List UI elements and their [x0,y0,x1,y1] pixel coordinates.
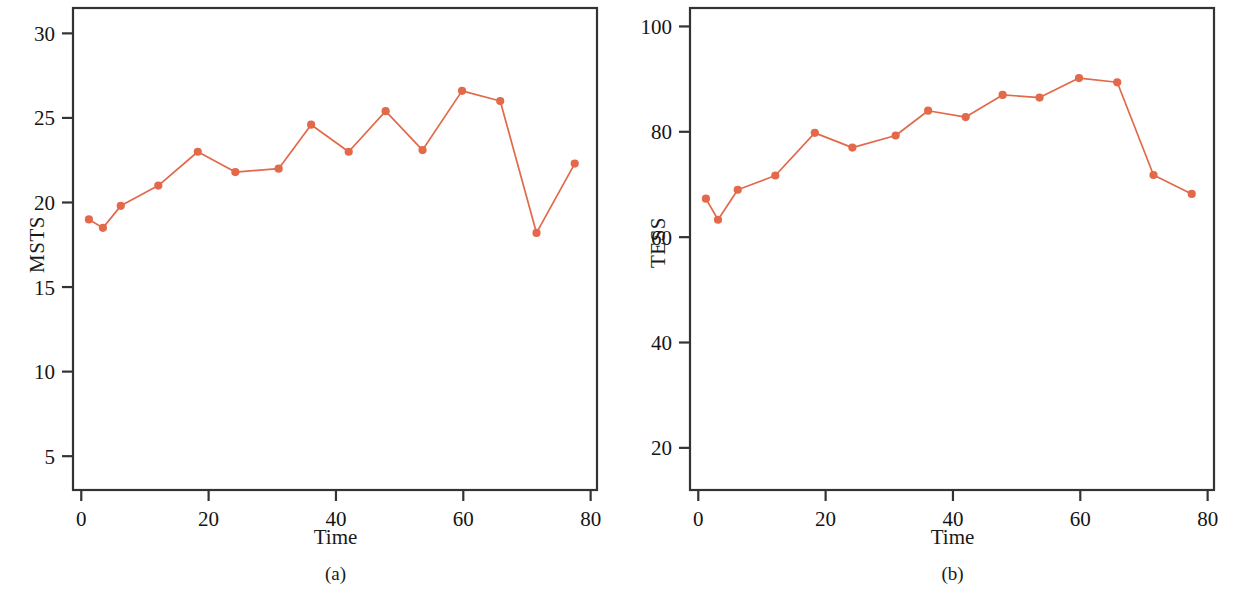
data-point-marker [345,148,353,156]
data-point-marker [714,216,722,224]
plot-frame [73,8,597,490]
plot-area-b: 20406080100020406080 [625,0,1249,590]
data-point-marker [924,107,932,115]
data-point-marker [154,181,162,189]
data-point-marker [307,121,315,129]
data-point-marker [771,171,779,179]
data-point-marker [275,165,283,173]
x-axis-label-b: Time [690,525,1215,550]
data-point-marker [231,168,239,176]
data-point-marker [999,91,1007,99]
data-point-marker [99,224,107,232]
data-point-marker [848,144,856,152]
data-point-marker [418,146,426,154]
y-tick-label: 25 [34,106,55,130]
data-point-marker [734,186,742,194]
data-point-marker [1188,190,1196,198]
data-point-marker [962,113,970,121]
x-axis-label-a: Time [73,525,598,550]
series-line [89,91,575,233]
data-point-marker [85,215,93,223]
data-point-marker [458,87,466,95]
chart-panel-a: 51015202530020406080 MSTS Time (a) [0,0,624,590]
y-axis-label-b: TESS [646,198,671,288]
data-point-marker [702,195,710,203]
data-point-marker [496,97,504,105]
data-point-marker [194,148,202,156]
data-point-marker [1113,78,1121,86]
data-point-marker [117,202,125,210]
plot-frame [690,8,1214,490]
data-point-marker [571,159,579,167]
data-point-marker [382,107,390,115]
data-point-marker [1075,74,1083,82]
y-tick-label: 5 [45,445,56,469]
plot-area-a: 51015202530020406080 [0,0,624,590]
y-axis-label-a: MSTS [25,200,50,290]
data-point-marker [811,129,819,137]
y-tick-label: 30 [34,22,55,46]
data-point-marker [1035,93,1043,101]
y-tick-label: 10 [34,360,55,384]
data-point-marker [1149,171,1157,179]
y-tick-label: 20 [651,436,672,460]
series-line [706,78,1192,220]
data-point-marker [892,131,900,139]
panel-caption-b: (b) [690,563,1215,585]
y-tick-label: 80 [651,120,672,144]
y-tick-label: 40 [651,331,672,355]
panel-caption-a: (a) [73,563,598,585]
chart-panel-b: 20406080100020406080 TESS Time (b) [625,0,1249,590]
data-point-marker [532,229,540,237]
y-tick-label: 100 [641,15,673,39]
figure-root: 51015202530020406080 MSTS Time (a) 20406… [0,0,1249,590]
